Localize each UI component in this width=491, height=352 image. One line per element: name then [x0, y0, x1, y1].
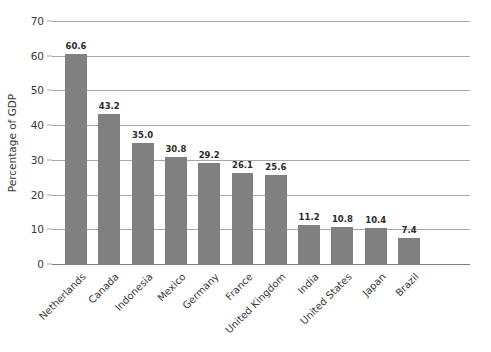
bar-rect[interactable]: [65, 54, 87, 264]
y-tick-label: 10: [31, 223, 44, 235]
bar-item[interactable]: 60.6: [65, 21, 87, 264]
bar-rect[interactable]: [265, 175, 287, 264]
bar-item[interactable]: 29.2: [198, 21, 220, 264]
y-tick-label: 60: [31, 50, 44, 62]
bar-rect[interactable]: [365, 228, 387, 264]
bar-rect[interactable]: [98, 114, 120, 264]
bar-value-label: 29.2: [199, 150, 220, 160]
bar-rect[interactable]: [331, 227, 353, 264]
bar-value-label: 43.2: [99, 101, 120, 111]
y-axis-title: Percentage of GDP: [6, 94, 18, 192]
bar-item[interactable]: 11.2: [298, 21, 320, 264]
x-tick-label: United Kingdom: [223, 271, 288, 336]
bar-rect[interactable]: [198, 163, 220, 264]
y-tick-label: 70: [31, 15, 44, 27]
plot-area: 010203040506070 60.643.235.030.829.226.1…: [52, 21, 470, 264]
bar-value-label: 25.6: [265, 162, 286, 172]
bars-group: 60.643.235.030.829.226.125.611.210.810.4…: [52, 21, 470, 264]
y-tick-label: 40: [31, 119, 44, 131]
x-tick-label: Japan: [360, 271, 387, 298]
bar-rect[interactable]: [232, 173, 254, 264]
bar-value-label: 26.1: [232, 160, 253, 170]
y-tick-label: 50: [31, 84, 44, 96]
bar-rect[interactable]: [298, 225, 320, 264]
x-tick-label: Netherlands: [37, 271, 88, 322]
x-tick-label: India: [296, 271, 321, 296]
bar-value-label: 60.6: [65, 41, 86, 51]
bar-rect[interactable]: [398, 238, 420, 264]
bar-chart: Percentage of GDP 010203040506070 60.643…: [0, 0, 491, 352]
y-tick-label: 20: [31, 189, 44, 201]
bar-item[interactable]: 10.4: [365, 21, 387, 264]
bar-item[interactable]: 30.8: [165, 21, 187, 264]
x-tick-label: France: [223, 271, 254, 302]
bar-value-label: 11.2: [299, 212, 320, 222]
bar-rect[interactable]: [132, 143, 154, 265]
bar-item[interactable]: 7.4: [398, 21, 420, 264]
bar-item[interactable]: 35.0: [132, 21, 154, 264]
bar-item[interactable]: 26.1: [232, 21, 254, 264]
y-tick-label: 30: [31, 154, 44, 166]
y-tick-label: 0: [37, 258, 44, 270]
bar-item[interactable]: 10.8: [331, 21, 353, 264]
bar-rect[interactable]: [165, 157, 187, 264]
x-tick-label: Mexico: [155, 271, 187, 303]
bar-item[interactable]: 25.6: [265, 21, 287, 264]
bar-value-label: 10.8: [332, 214, 353, 224]
bar-value-label: 7.4: [402, 225, 417, 235]
bar-item[interactable]: 43.2: [98, 21, 120, 264]
x-tick-label: Brazil: [393, 271, 421, 299]
bar-value-label: 30.8: [165, 144, 186, 154]
bar-value-label: 10.4: [365, 215, 386, 225]
bar-value-label: 35.0: [132, 130, 153, 140]
x-axis-labels: NetherlandsCanadaIndonesiaMexicoGermanyF…: [52, 264, 470, 352]
